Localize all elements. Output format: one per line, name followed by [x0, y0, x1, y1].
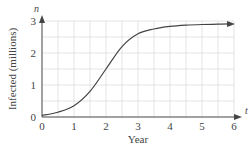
- axes: [39, 15, 242, 120]
- chart: 0123456 0123 t n Year Infected (millions…: [0, 0, 252, 155]
- y-tick-labels: 0123: [31, 15, 37, 123]
- x-tick-label: 3: [135, 120, 141, 132]
- x-variable-label: t: [245, 105, 248, 116]
- x-tick-labels: 0123456: [39, 120, 237, 132]
- y-axis-label: Infected (millions): [6, 28, 19, 111]
- y-variable-label: n: [34, 3, 39, 14]
- x-tick-label: 4: [167, 120, 173, 132]
- x-tick-label: 0: [39, 120, 45, 132]
- x-tick-label: 6: [231, 120, 237, 132]
- y-axis-arrow-icon: [39, 15, 45, 23]
- y-tick-label: 0: [31, 111, 37, 123]
- grid: [42, 21, 234, 117]
- y-tick-label: 2: [31, 47, 37, 59]
- y-tick-label: 1: [31, 79, 37, 91]
- x-tick-label: 5: [199, 120, 205, 132]
- x-tick-label: 2: [103, 120, 109, 132]
- x-tick-label: 1: [71, 120, 77, 132]
- y-tick-label: 3: [31, 15, 37, 27]
- x-axis-label: Year: [128, 133, 149, 145]
